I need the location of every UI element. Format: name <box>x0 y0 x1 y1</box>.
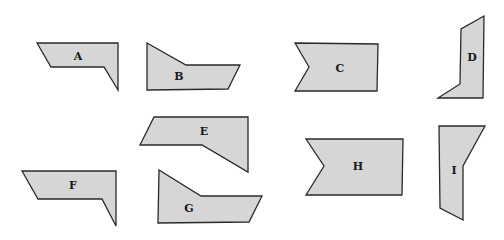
shape-g: G <box>158 170 262 223</box>
shape-d: D <box>438 16 484 98</box>
shape-d-label: D <box>467 51 477 64</box>
shape-f: F <box>22 171 116 226</box>
shape-a-label: A <box>73 50 83 63</box>
shape-f-label: F <box>69 179 77 192</box>
shape-a: A <box>37 43 118 90</box>
shape-h-label: H <box>353 160 363 173</box>
shape-c: C <box>295 43 378 91</box>
shape-b-polygon <box>147 43 240 90</box>
shape-i: I <box>439 126 485 220</box>
shape-b-label: B <box>174 70 183 83</box>
shape-g-polygon <box>158 170 262 223</box>
shape-h: H <box>306 139 403 195</box>
shape-e-label: E <box>200 125 208 138</box>
shape-i-polygon <box>439 126 485 220</box>
shape-c-label: C <box>336 62 345 75</box>
shape-d-polygon <box>438 16 484 98</box>
shape-g-label: G <box>184 202 193 215</box>
shape-e-polygon <box>140 117 248 172</box>
shape-e: E <box>140 117 248 172</box>
shape-b: B <box>147 43 240 90</box>
shape-i-label: I <box>451 164 456 177</box>
shapes-diagram: A B C D E F G H I <box>0 0 504 240</box>
